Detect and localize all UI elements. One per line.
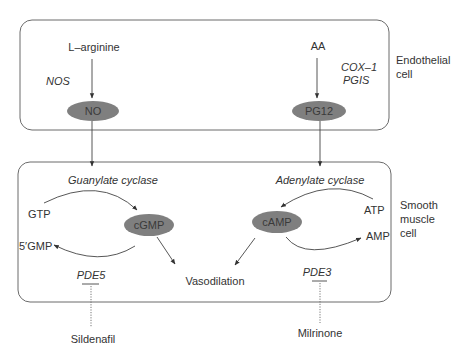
adenylate-cyclase-label: Adenylate cyclase <box>275 174 365 186</box>
pg12-label: PG12 <box>305 105 333 117</box>
camp-to-amp-arrow <box>286 237 361 250</box>
atp-to-camp-arrow <box>281 189 373 207</box>
milrinone-label: Milrinone <box>298 327 343 339</box>
pgis-label: PGIS <box>343 74 370 86</box>
pde5-label: PDE5 <box>77 269 107 281</box>
pathway-diagram: Endothelial cell Smooth muscle cell L–ar… <box>0 0 464 358</box>
guanylate-cyclase-label: Guanylate cyclase <box>68 174 158 186</box>
aa-label: AA <box>311 40 326 52</box>
camp-to-vasodilation-arrow <box>235 238 255 265</box>
5gmp-label: 5′GMP <box>19 240 52 252</box>
amp-label: AMP <box>366 230 390 242</box>
endothelial-label-line2: cell <box>396 68 413 80</box>
camp-label: cAMP <box>262 216 291 228</box>
smooth-muscle-label-line2: muscle <box>400 213 435 225</box>
cox1-label: COX–1 <box>341 61 377 73</box>
cgmp-to-5gmp-arrow <box>54 245 135 257</box>
camp-node: cAMP <box>252 211 302 233</box>
l-arginine-label: L–arginine <box>68 41 119 53</box>
cgmp-label: cGMP <box>134 219 165 231</box>
sildenafil-label: Sildenafil <box>71 333 116 345</box>
gtp-to-cgmp-arrow <box>44 191 137 210</box>
pg12-node: PG12 <box>292 101 346 121</box>
atp-label: ATP <box>364 204 385 216</box>
vasodilation-label: Vasodilation <box>185 275 244 287</box>
cgmp-to-vasodilation-arrow <box>157 237 175 264</box>
no-label: NO <box>85 105 102 117</box>
gtp-label: GTP <box>28 208 51 220</box>
smooth-muscle-label-line3: cell <box>400 227 417 239</box>
endothelial-label-line1: Endothelial <box>396 54 450 66</box>
smooth-muscle-label-line1: Smooth <box>400 199 438 211</box>
pde3-label: PDE3 <box>303 266 333 278</box>
nos-label: NOS <box>46 75 71 87</box>
no-node: NO <box>67 101 119 121</box>
cgmp-node: cGMP <box>124 214 174 236</box>
